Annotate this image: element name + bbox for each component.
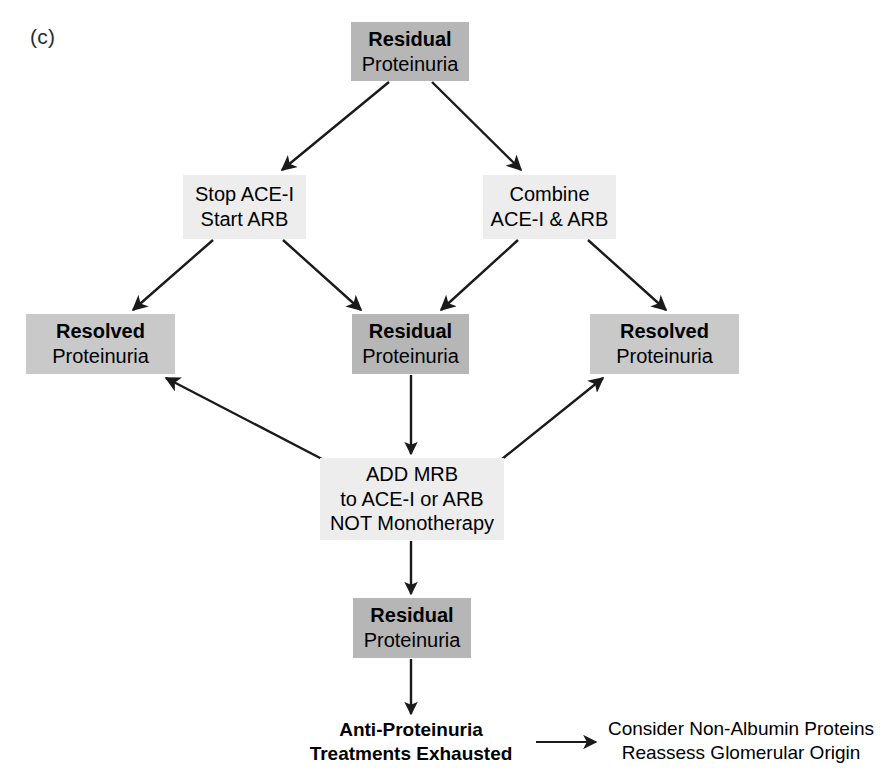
node-line-2: Proteinuria	[362, 52, 459, 77]
node-line-2: Proteinuria	[616, 344, 713, 369]
node-line-1: Residual	[368, 27, 451, 52]
node-resolved-proteinuria-right[interactable]: Resolved Proteinuria	[590, 314, 739, 374]
edge-stop-to-residual-middle	[283, 240, 361, 310]
node-line-1: Combine	[509, 182, 589, 207]
flowchart-canvas: (c) Residual Proteinuria Stop ACE-I Star…	[0, 0, 895, 784]
node-resolved-proteinuria-left[interactable]: Resolved Proteinuria	[26, 314, 175, 374]
node-line-2: Start ARB	[201, 207, 289, 232]
node-line-1: Anti-Proteinuria	[339, 718, 483, 742]
edge-mrb-to-resolved-left	[166, 378, 322, 459]
node-add-mrb[interactable]: ADD MRB to ACE-I or ARB NOT Monotherapy	[320, 458, 504, 540]
node-line-2: ACE-I & ARB	[491, 207, 609, 232]
node-line-1: Resolved	[56, 319, 145, 344]
node-stop-ace-i-start-arb[interactable]: Stop ACE-I Start ARB	[183, 175, 306, 239]
edge-combine-to-resolved-right	[588, 240, 666, 310]
node-combine-ace-i-and-arb[interactable]: Combine ACE-I & ARB	[483, 175, 616, 239]
node-consider-next-steps: Consider Non-Albumin Proteins Reassess G…	[602, 716, 880, 766]
node-treatments-exhausted: Anti-Proteinuria Treatments Exhausted	[292, 718, 530, 766]
node-residual-proteinuria-bottom[interactable]: Residual Proteinuria	[353, 598, 471, 658]
edge-stop-to-resolved-left	[133, 240, 213, 310]
node-line-1: Stop ACE-I	[195, 182, 294, 207]
edge-combine-to-residual-middle	[441, 240, 518, 310]
node-line-2: Reassess Glomerular Origin	[622, 741, 861, 765]
edge-top-to-stop	[282, 82, 389, 170]
node-line-1: Residual	[369, 319, 452, 344]
node-line-1: ADD MRB	[366, 462, 458, 487]
node-line-2: Proteinuria	[362, 344, 459, 369]
panel-label: (c)	[30, 25, 55, 49]
node-line-3: NOT Monotherapy	[330, 511, 494, 536]
node-residual-proteinuria-middle[interactable]: Residual Proteinuria	[352, 314, 469, 374]
node-line-2: Treatments Exhausted	[310, 742, 513, 766]
node-line-2: Proteinuria	[364, 628, 461, 653]
edge-top-to-combine	[432, 82, 521, 170]
edge-layer	[0, 0, 895, 784]
node-line-1: Consider Non-Albumin Proteins	[608, 717, 874, 741]
node-line-2: Proteinuria	[52, 344, 149, 369]
node-line-1: Resolved	[620, 319, 709, 344]
node-top-residual-proteinuria[interactable]: Residual Proteinuria	[351, 22, 469, 81]
node-line-1: Residual	[370, 603, 453, 628]
node-line-2: to ACE-I or ARB	[340, 487, 483, 512]
edge-mrb-to-resolved-right	[502, 378, 603, 459]
